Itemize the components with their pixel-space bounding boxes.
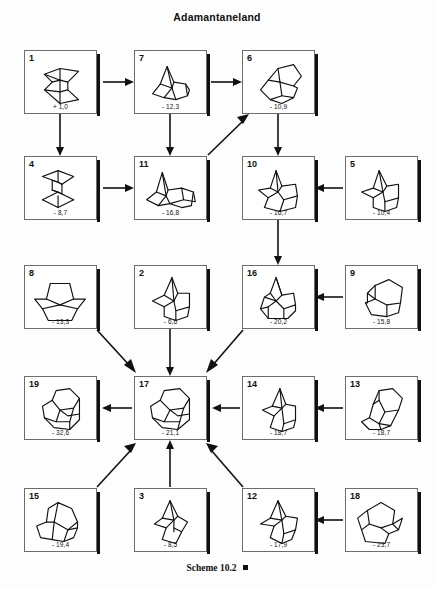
arrow-15-to-17 — [97, 443, 136, 487]
arrow-18-to-12 — [315, 516, 343, 524]
arrow-7-to-6 — [211, 78, 242, 86]
compound-box-9[interactable]: 9 - 15,8 — [345, 265, 418, 329]
energy-value: - 17,9 — [243, 541, 314, 548]
compound-box-14[interactable]: 14 - 18,7 — [242, 376, 315, 440]
compound-box-13[interactable]: 13 - 18,7 — [345, 376, 418, 440]
scheme-caption: Scheme 10.2 — [0, 563, 434, 573]
compound-box-15[interactable]: 15 - 19,4 — [24, 488, 97, 552]
arrow-13-to-14 — [315, 404, 343, 412]
energy-value: - 6,6 — [135, 318, 206, 325]
compound-box-19[interactable]: 19 - 32,6 — [24, 376, 97, 440]
compound-box-5[interactable]: 5 - 10,4 — [345, 156, 418, 220]
arrow-6-to-10 — [274, 114, 282, 156]
energy-value: - 21,1 — [135, 429, 206, 436]
compound-box-6[interactable]: 6 - 10,9 — [242, 50, 315, 114]
compound-box-3[interactable]: 3 - 8,5 — [134, 488, 207, 552]
arrow-1-to-4 — [56, 114, 64, 156]
compound-box-18[interactable]: 18 - 23,7 — [345, 488, 418, 552]
compound-box-8[interactable]: 8 - 13,3 — [24, 265, 97, 329]
arrow-7-to-11 — [166, 114, 174, 156]
arrow-11-to-6 — [208, 114, 249, 155]
arrow-17-to-19 — [102, 404, 132, 412]
square-marker-icon — [243, 565, 248, 570]
compound-box-2[interactable]: 2 - 6,6 — [134, 265, 207, 329]
energy-value: - 16,7 — [243, 209, 314, 216]
compound-box-4[interactable]: 4 - 8,7 — [24, 156, 97, 220]
arrow-4-to-11 — [103, 184, 134, 192]
compound-box-11[interactable]: 11 - 16,8 — [134, 156, 207, 220]
compound-box-7[interactable]: 7 - 12,3 — [134, 50, 207, 114]
arrow-5-to-10 — [315, 184, 343, 192]
arrow-8-to-17 — [97, 330, 136, 373]
energy-value: - 12,3 — [135, 103, 206, 110]
compound-box-10[interactable]: 10 - 16,7 — [242, 156, 315, 220]
energy-value: - 20,2 — [243, 318, 314, 325]
energy-value: - 32,6 — [25, 429, 96, 436]
scheme-page: Adamantaneland — [0, 0, 434, 589]
energy-value: - 10,4 — [346, 209, 417, 216]
arrow-12-to-17 — [206, 443, 243, 487]
compound-box-12[interactable]: 12 - 17,9 — [242, 488, 315, 552]
arrow-3-to-17 — [166, 440, 174, 487]
compound-box-16[interactable]: 16 - 20,2 — [242, 265, 315, 329]
arrow-1-to-7 — [103, 78, 134, 86]
energy-value: - 19,4 — [25, 541, 96, 548]
page-title: Adamantaneland — [0, 11, 434, 23]
arrow-2-to-17 — [166, 329, 174, 376]
energy-value: - 18,7 — [346, 429, 417, 436]
energy-value: - 8,5 — [135, 541, 206, 548]
energy-value: + 1,0 — [25, 103, 96, 110]
arrow-10-to-16 — [274, 220, 282, 265]
arrow-9-to-16 — [315, 293, 343, 301]
compound-box-1[interactable]: 1 + 1,0 — [24, 50, 97, 114]
energy-value: - 8,7 — [25, 209, 96, 216]
arrow-16-to-17 — [206, 330, 243, 373]
energy-value: - 23,7 — [346, 541, 417, 548]
energy-value: - 10,9 — [243, 103, 314, 110]
energy-value: - 15,8 — [346, 318, 417, 325]
energy-value: - 16,8 — [135, 209, 206, 216]
energy-value: - 18,7 — [243, 429, 314, 436]
arrow-14-to-17 — [212, 404, 240, 412]
energy-value: - 13,3 — [25, 318, 96, 325]
scheme-caption-text: Scheme 10.2 — [186, 563, 236, 573]
compound-box-17[interactable]: 17 - 21,1 — [134, 376, 207, 440]
